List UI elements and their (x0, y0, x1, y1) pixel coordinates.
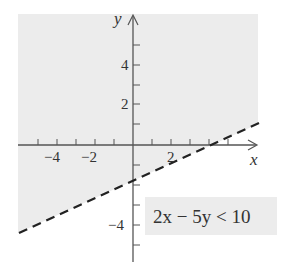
x-axis-label: x (249, 150, 258, 169)
y-tick-label-4: 4 (121, 57, 129, 73)
y-tick-label-2: 2 (121, 96, 129, 112)
x-tick-label-neg4: −4 (44, 149, 60, 165)
inequality-graph: −4 −2 2 4 2 −4 x y 2x − 5y < 10 (0, 0, 281, 273)
x-tick-label-2: 2 (167, 149, 175, 165)
y-tick-label-neg4: −4 (108, 217, 124, 233)
inequality-label: 2x − 5y < 10 (153, 206, 250, 227)
y-axis-label: y (112, 9, 122, 28)
x-tick-label-neg2: −2 (81, 149, 97, 165)
